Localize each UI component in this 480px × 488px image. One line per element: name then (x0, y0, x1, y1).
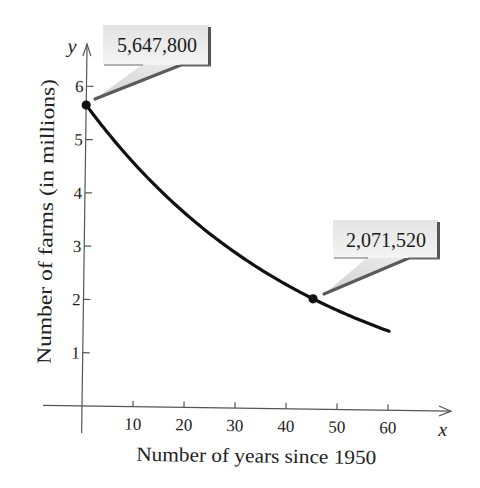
y-tick-label: 3 (73, 237, 82, 256)
x-tick-label: 10 (124, 415, 141, 434)
x-axis-title: Number of years since 1950 (136, 443, 376, 469)
x-ticks: 102030405060 (124, 401, 396, 438)
callout-1995: 2,071,520 (323, 220, 440, 295)
farms-chart: y x 102030405060 123456 Number of years … (0, 0, 480, 488)
x-tick-label: 40 (277, 417, 294, 436)
x-tick-label: 60 (379, 418, 396, 437)
y-axis-symbol: y (65, 35, 76, 58)
x-tick-label: 50 (328, 417, 345, 436)
x-tick-label: 20 (175, 415, 192, 434)
y-tick-label: 2 (72, 290, 81, 309)
y-tick-label: 4 (73, 184, 82, 203)
y-tick-label: 1 (71, 344, 80, 363)
x-axis (43, 405, 451, 411)
callout-label-1950: 5,647,800 (117, 34, 197, 56)
callout-shadow-right (437, 222, 440, 259)
y-ticks: 123456 (71, 77, 93, 363)
x-tick-label: 30 (226, 416, 243, 435)
y-axis-title: Number of farms (in millions) (33, 79, 60, 364)
x-axis-symbol: x (437, 418, 447, 440)
data-points (79, 100, 320, 303)
y-tick-label: 5 (74, 130, 83, 149)
decay-curve (83, 105, 392, 331)
y-tick-label: 6 (75, 77, 84, 96)
callout-label-1995: 2,071,520 (346, 229, 426, 251)
callout-1950: 5,647,800 (94, 25, 211, 100)
callout-shadow-right (208, 27, 211, 66)
